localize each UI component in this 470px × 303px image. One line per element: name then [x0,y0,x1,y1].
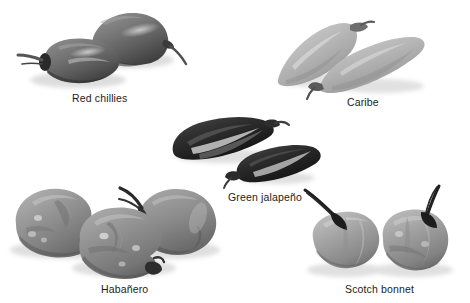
red-chilli-front [18,38,120,83]
specimen-group-scotch-bonnet [293,180,468,280]
scotch-bonnet-right [383,186,449,270]
habanero-illustration [2,178,227,283]
specimen-group-habanero [2,178,227,283]
pepper-varieties-figure: Red chillies [0,0,470,303]
specimen-group-caribe [262,4,442,104]
caption-red-chillies: Red chillies [72,92,128,104]
caption-green-jalapeno: Green jalapeño [228,191,302,203]
caption-habanero: Habañero [101,283,148,295]
habanero-center [79,207,164,279]
caribe-illustration [262,4,442,104]
caption-scotch-bonnet: Scotch bonnet [345,283,414,295]
scotch-bonnet-left [305,190,379,268]
scotch-bonnet-illustration [293,180,468,280]
caption-caribe: Caribe [347,96,379,108]
